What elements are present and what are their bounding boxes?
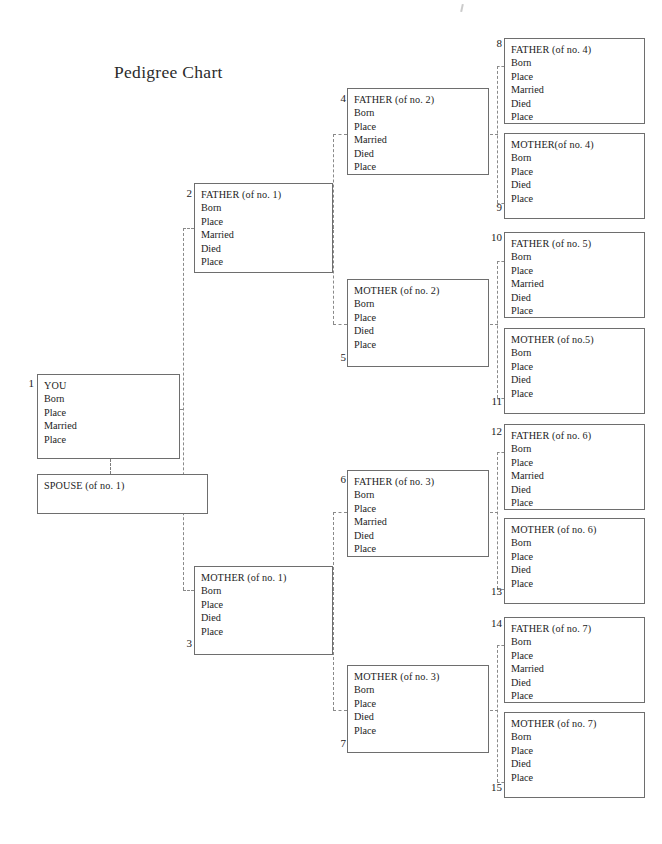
box-mother-1[interactable]: MOTHER (of no. 1) Born Place Died Place bbox=[194, 566, 333, 655]
box-you-place2: Place bbox=[44, 433, 179, 446]
box-mother-5-header: MOTHER (of no.5) bbox=[511, 333, 644, 346]
box-you-place: Place bbox=[44, 406, 179, 419]
box-father-4-died: Died bbox=[511, 97, 644, 110]
box-mother-2-died: Died bbox=[354, 324, 488, 337]
box-mother-3-header: MOTHER (of no. 3) bbox=[354, 670, 488, 683]
box-father-5-header: FATHER (of no. 5) bbox=[511, 237, 644, 250]
box-mother-6[interactable]: MOTHER (of no. 6) Born Place Died Place bbox=[504, 518, 645, 604]
box-number-13: 13 bbox=[480, 586, 502, 597]
scan-artifact-mark bbox=[460, 4, 464, 12]
box-spouse[interactable]: SPOUSE (of no. 1) bbox=[37, 474, 208, 514]
box-father-2-born: Born bbox=[354, 106, 488, 119]
box-father-4-header: FATHER (of no. 4) bbox=[511, 43, 644, 56]
box-father-2[interactable]: FATHER (of no. 2) Born Place Married Die… bbox=[347, 88, 489, 175]
box-mother-3-died: Died bbox=[354, 710, 488, 723]
box-mother-7-header: MOTHER (of no. 7) bbox=[511, 717, 644, 730]
connector-to-father-7 bbox=[497, 645, 504, 646]
page-title: Pedigree Chart bbox=[114, 62, 223, 83]
box-number-1: 1 bbox=[18, 378, 34, 389]
box-father-7-place2: Place bbox=[511, 689, 644, 702]
box-father-1[interactable]: FATHER (of no. 1) Born Place Married Die… bbox=[194, 183, 333, 273]
box-father-7-header: FATHER (of no. 7) bbox=[511, 622, 644, 635]
box-father-4-married: Married bbox=[511, 83, 644, 96]
box-father-4[interactable]: FATHER (of no. 4) Born Place Married Die… bbox=[504, 38, 645, 124]
box-father-5[interactable]: FATHER (of no. 5) Born Place Married Die… bbox=[504, 232, 645, 318]
box-number-8: 8 bbox=[486, 38, 502, 49]
box-father-5-place: Place bbox=[511, 264, 644, 277]
box-father-2-place: Place bbox=[354, 120, 488, 133]
box-mother-2-place: Place bbox=[354, 311, 488, 324]
connector-to-mother-3 bbox=[333, 710, 347, 711]
box-father-1-place: Place bbox=[201, 215, 332, 228]
box-number-9: 9 bbox=[486, 202, 502, 213]
box-you-born: Born bbox=[44, 392, 179, 405]
connector-to-father-2 bbox=[333, 134, 347, 135]
box-mother-7-place: Place bbox=[511, 744, 644, 757]
box-father-6-born: Born bbox=[511, 442, 644, 455]
box-mother-3-born: Born bbox=[354, 683, 488, 696]
box-mother-4-place2: Place bbox=[511, 192, 644, 205]
box-mother-5-born: Born bbox=[511, 346, 644, 359]
connector-to-father-6 bbox=[497, 452, 504, 453]
box-number-4: 4 bbox=[330, 93, 346, 104]
connector-greatgp-bracket-1 bbox=[497, 66, 498, 203]
box-mother-5-died: Died bbox=[511, 373, 644, 386]
box-number-3: 3 bbox=[176, 638, 192, 649]
box-number-15: 15 bbox=[480, 782, 502, 793]
box-father-4-born: Born bbox=[511, 56, 644, 69]
box-father-1-born: Born bbox=[201, 201, 332, 214]
box-mother-1-died: Died bbox=[201, 611, 332, 624]
box-father-2-header: FATHER (of no. 2) bbox=[354, 93, 488, 106]
box-father-5-died: Died bbox=[511, 291, 644, 304]
box-number-6: 6 bbox=[330, 474, 346, 485]
box-mother-5[interactable]: MOTHER (of no.5) Born Place Died Place bbox=[504, 328, 645, 414]
connector-to-father-4 bbox=[497, 66, 504, 67]
box-number-7: 7 bbox=[330, 738, 346, 749]
box-father-6-married: Married bbox=[511, 469, 644, 482]
connector-greatgp-bracket-4 bbox=[497, 645, 498, 782]
box-father-7-born: Born bbox=[511, 635, 644, 648]
pedigree-chart-page: Pedigree Chart 1 2 3 4 5 6 7 8 9 10 11 1… bbox=[0, 0, 662, 844]
box-mother-2-born: Born bbox=[354, 297, 488, 310]
box-father-4-place2: Place bbox=[511, 110, 644, 123]
box-mother-3-place2: Place bbox=[354, 724, 488, 737]
box-number-14: 14 bbox=[480, 618, 502, 629]
box-mother-3[interactable]: MOTHER (of no. 3) Born Place Died Place bbox=[347, 665, 489, 753]
connector-to-father-5 bbox=[497, 261, 504, 262]
box-father-1-married: Married bbox=[201, 228, 332, 241]
box-mother-7[interactable]: MOTHER (of no. 7) Born Place Died Place bbox=[504, 712, 645, 798]
box-mother-4-born: Born bbox=[511, 151, 644, 164]
box-mother-2[interactable]: MOTHER (of no. 2) Born Place Died Place bbox=[347, 279, 489, 367]
box-mother-4-died: Died bbox=[511, 178, 644, 191]
box-father-7-died: Died bbox=[511, 676, 644, 689]
box-father-7-married: Married bbox=[511, 662, 644, 675]
box-father-6-header: FATHER (of no. 6) bbox=[511, 429, 644, 442]
box-father-6-place: Place bbox=[511, 456, 644, 469]
box-mother-1-header: MOTHER (of no. 1) bbox=[201, 571, 332, 584]
box-you-header: YOU bbox=[44, 379, 179, 392]
box-father-7[interactable]: FATHER (of no. 7) Born Place Married Die… bbox=[504, 617, 645, 703]
box-father-3-header: FATHER (of no. 3) bbox=[354, 475, 488, 488]
connector-grandparents-bracket-lower bbox=[333, 512, 334, 710]
connector-to-mother-2 bbox=[333, 324, 347, 325]
connector-parents-bracket bbox=[183, 228, 184, 590]
box-you[interactable]: YOU Born Place Married Place bbox=[37, 374, 180, 459]
box-number-10: 10 bbox=[480, 232, 502, 243]
box-mother-6-place: Place bbox=[511, 550, 644, 563]
box-father-3-born: Born bbox=[354, 488, 488, 501]
connector-greatgp-bracket-3 bbox=[497, 452, 498, 589]
box-father-1-header: FATHER (of no. 1) bbox=[201, 188, 332, 201]
box-mother-7-born: Born bbox=[511, 730, 644, 743]
box-number-12: 12 bbox=[480, 426, 502, 437]
connector-to-father-1 bbox=[183, 228, 194, 229]
box-mother-7-died: Died bbox=[511, 757, 644, 770]
box-father-2-place2: Place bbox=[354, 160, 488, 173]
box-mother-6-born: Born bbox=[511, 536, 644, 549]
box-father-6[interactable]: FATHER (of no. 6) Born Place Married Die… bbox=[504, 424, 645, 510]
box-mother-1-place: Place bbox=[201, 598, 332, 611]
box-father-3[interactable]: FATHER (of no. 3) Born Place Married Die… bbox=[347, 470, 489, 557]
box-mother-4[interactable]: MOTHER(of no. 4) Born Place Died Place bbox=[504, 133, 645, 219]
box-mother-1-place2: Place bbox=[201, 625, 332, 638]
box-number-11: 11 bbox=[480, 396, 502, 407]
box-mother-2-place2: Place bbox=[354, 338, 488, 351]
